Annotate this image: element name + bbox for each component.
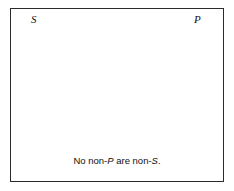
caption-segment-4: . <box>158 155 161 166</box>
diagram-caption: No non-P are non-S. <box>12 156 222 166</box>
circle-label-p: P <box>194 14 201 25</box>
caption-segment-2: are non- <box>114 155 152 166</box>
caption-segment-0: No non- <box>73 155 107 166</box>
venn-diagram-figure: S P No non-P are non-S. <box>0 0 234 191</box>
circle-label-s: S <box>31 14 37 25</box>
